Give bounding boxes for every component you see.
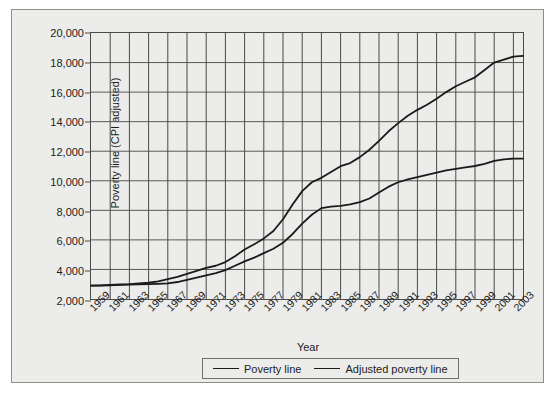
plot-area: Poverty line (CPI adjusted) 2,0004,0006,… bbox=[90, 32, 524, 300]
legend-label: Poverty line bbox=[244, 363, 301, 375]
legend-line-icon bbox=[314, 368, 340, 369]
y-tick-mark bbox=[85, 62, 91, 63]
y-tick-label: 16,000 bbox=[50, 87, 84, 99]
y-tick-label: 12,000 bbox=[50, 146, 84, 158]
legend-item-poverty-line: Poverty line bbox=[213, 363, 301, 375]
y-tick-mark bbox=[85, 241, 91, 242]
y-tick-label: 18,000 bbox=[50, 57, 84, 69]
y-tick-mark bbox=[85, 181, 91, 182]
y-tick-label: 20,000 bbox=[50, 27, 84, 39]
y-tick-label: 4,000 bbox=[56, 265, 84, 277]
y-tick-label: 2,000 bbox=[56, 295, 84, 307]
chart-figure: Poverty line (CPI adjusted) 2,0004,0006,… bbox=[0, 0, 556, 393]
series-line bbox=[91, 56, 523, 286]
y-tick-mark bbox=[85, 271, 91, 272]
chart-legend: Poverty line Adjusted poverty line bbox=[202, 358, 459, 379]
y-tick-mark bbox=[85, 152, 91, 153]
x-axis-title: Year bbox=[91, 341, 525, 353]
legend-line-icon bbox=[213, 368, 239, 369]
series-line bbox=[91, 159, 523, 286]
y-tick-mark bbox=[85, 33, 91, 34]
y-tick-label: 6,000 bbox=[56, 235, 84, 247]
legend-label: Adjusted poverty line bbox=[345, 363, 447, 375]
y-tick-mark bbox=[85, 122, 91, 123]
y-tick-label: 8,000 bbox=[56, 206, 84, 218]
y-tick-label: 14,000 bbox=[50, 116, 84, 128]
figure-frame: Poverty line (CPI adjusted) 2,0004,0006,… bbox=[11, 9, 544, 383]
legend-item-adjusted-poverty-line: Adjusted poverty line bbox=[314, 363, 447, 375]
data-series-layer bbox=[91, 33, 523, 299]
y-tick-label: 10,000 bbox=[50, 176, 84, 188]
y-tick-mark bbox=[85, 211, 91, 212]
y-tick-mark bbox=[85, 92, 91, 93]
